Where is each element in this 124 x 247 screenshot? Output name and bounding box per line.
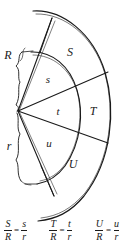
geometry-diagram: R r S T U s t u <box>0 0 124 247</box>
label-arc-U: U <box>69 157 79 171</box>
fraction-u-over-r: u r <box>113 219 120 242</box>
numerator-t: t <box>67 219 72 230</box>
outer-arc-R-shadow <box>36 14 110 218</box>
denominator-R: R <box>4 230 12 242</box>
outer-node-bottom-tick <box>41 166 54 196</box>
fraction-S-over-R: S R <box>4 219 12 242</box>
numerator-u: u <box>113 219 120 230</box>
radius-ray-bottom-shadow <box>19 111 57 194</box>
formula-row: S R = s r T R = t r U R = <box>0 214 124 247</box>
numerator-s: s <box>21 219 27 230</box>
denominator-R: R <box>49 230 57 242</box>
equals-sign: = <box>106 226 111 235</box>
label-radius-r: r <box>7 139 12 153</box>
fraction-T-over-R: T R <box>49 219 57 242</box>
numerator-T: T <box>50 219 58 230</box>
label-arc-T: T <box>90 104 98 118</box>
label-arc-u: u <box>46 137 52 149</box>
brace-r <box>16 113 21 181</box>
equation-ratio-S-R: S R = s r <box>4 219 27 242</box>
brace-R-tail <box>20 48 25 61</box>
figure-page: R r S T U s t u S R = s r T R = <box>0 0 124 247</box>
equals-sign: = <box>14 226 19 235</box>
label-radius-R: R <box>3 48 12 62</box>
label-arc-t: t <box>56 105 60 117</box>
numerator-U: U <box>95 219 104 230</box>
denominator-r: r <box>67 230 73 242</box>
fraction-s-over-r: s r <box>21 219 27 242</box>
denominator-R: R <box>95 230 103 242</box>
denominator-r: r <box>21 230 27 242</box>
denominator-r: r <box>114 230 120 242</box>
numerator-S: S <box>5 219 12 230</box>
label-arc-s: s <box>46 73 50 85</box>
equals-sign: = <box>59 226 64 235</box>
equation-ratio-U-R: U R = u r <box>95 219 120 242</box>
fraction-U-over-R: U R <box>95 219 104 242</box>
outer-arc-R <box>33 11 111 221</box>
fraction-t-over-r: t r <box>67 219 73 242</box>
equation-ratio-T-R: T R = t r <box>49 219 72 242</box>
outer-node-top-tick <box>40 18 52 53</box>
label-arc-S: S <box>67 45 73 59</box>
